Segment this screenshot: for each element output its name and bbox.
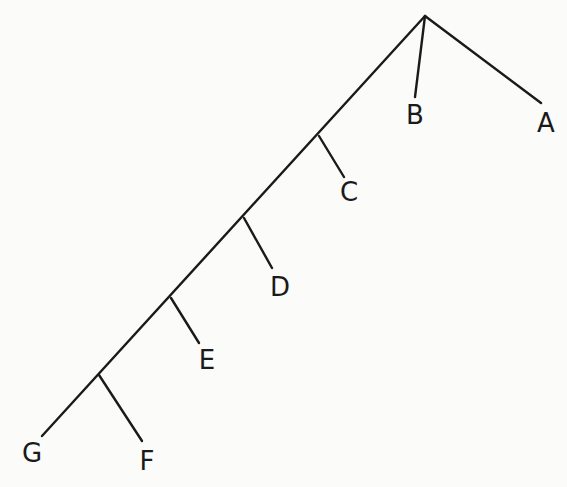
branch-e-line: [171, 298, 199, 343]
leaf-label-b: B: [406, 102, 424, 128]
leaf-label-e: E: [199, 347, 215, 373]
leaf-label-g: G: [22, 440, 42, 466]
branch-d-line: [244, 218, 272, 268]
leaf-label-f: F: [140, 448, 155, 474]
branch-c-line: [319, 136, 344, 177]
branch-b-line: [415, 16, 425, 97]
tree-edges: [42, 16, 541, 441]
trunk-line: [42, 16, 425, 436]
leaf-label-d: D: [270, 274, 290, 300]
cladogram: [0, 0, 567, 487]
leaf-label-a: A: [537, 110, 555, 136]
leaf-label-c: C: [340, 179, 358, 205]
branch-f-line: [99, 375, 142, 441]
branch-a-line: [425, 16, 541, 103]
